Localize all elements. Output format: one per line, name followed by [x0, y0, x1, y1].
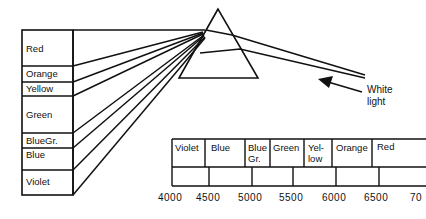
arrow-head-icon	[318, 76, 333, 88]
prism	[179, 9, 258, 78]
table-col-green: Green	[273, 142, 299, 153]
table-col-yellow: Yel- low	[308, 142, 324, 164]
table-col-bluegreen: Blue Gr.	[248, 142, 267, 164]
band-label-red: Red	[26, 44, 43, 54]
table-col-orange: Orange	[336, 142, 368, 153]
table-col-violet: Violet	[175, 142, 199, 153]
tick-6500: 6500	[364, 192, 388, 203]
white-light-beam-lower	[200, 49, 365, 78]
dispersed-rays	[73, 32, 205, 195]
band-label-orange: Orange	[26, 69, 58, 79]
tick-5000: 5000	[238, 192, 262, 203]
tick-4500: 4500	[196, 192, 220, 203]
band-label-yellow: Yellow	[26, 84, 53, 94]
white-light-label-line1: White	[367, 84, 393, 96]
band-label-green: Green	[26, 110, 52, 120]
band-label-violet: Violet	[26, 177, 50, 187]
arrow-shaft	[328, 82, 362, 92]
tick-4000: 4000	[158, 192, 182, 203]
table-col-red: Red	[377, 141, 394, 152]
tick-7000-partial: 70	[410, 192, 422, 203]
white-light-label-line2: light	[367, 96, 385, 108]
table-col-blue: Blue	[211, 142, 230, 153]
band-label-bluegreen: BlueGr.	[26, 136, 58, 146]
prism-dispersion-drawing	[0, 0, 426, 219]
tick-5500: 5500	[279, 192, 303, 203]
tick-6000: 6000	[322, 192, 346, 203]
band-label-blue: Blue	[26, 150, 45, 160]
white-light-beam-upper	[206, 30, 365, 75]
